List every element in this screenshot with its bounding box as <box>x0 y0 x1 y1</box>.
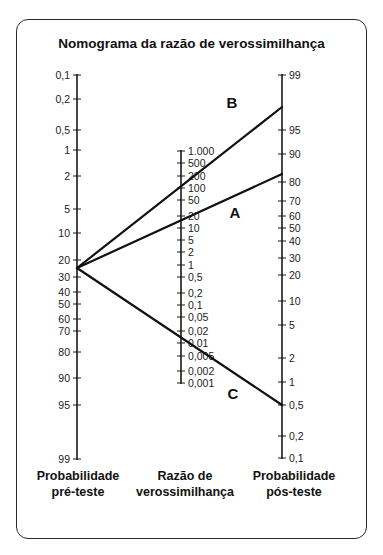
tick-label: 90 <box>58 372 70 384</box>
tick-label: 0,1 <box>188 299 203 311</box>
tick-label: 1 <box>64 144 70 156</box>
tick-label: 10 <box>188 222 200 234</box>
tick-label: 90 <box>289 148 301 160</box>
tick-label: 5 <box>64 203 70 215</box>
tick-label: 20 <box>289 269 301 281</box>
tick-label: 20 <box>58 254 70 266</box>
tick-label: 0,2 <box>289 430 304 442</box>
line-label-a: A <box>230 204 241 221</box>
axis-label-likelihood-ratio: Razão de verossimilhança <box>130 468 240 500</box>
tick-label: 30 <box>58 271 70 283</box>
tick-label: 70 <box>289 195 301 207</box>
tick-label: 0,001 <box>188 377 214 389</box>
tick-label: 500 <box>188 157 206 169</box>
axis-label-line: Razão de <box>130 468 240 484</box>
tick-label: 10 <box>289 295 301 307</box>
tick-label: 2 <box>289 352 295 364</box>
tick-label: 10 <box>58 227 70 239</box>
tick-label: 5 <box>289 319 295 331</box>
tick-label: 99 <box>58 453 70 465</box>
axis-label-line: Probabilidade <box>20 468 136 484</box>
tick-label: 0,5 <box>188 271 203 283</box>
axis-label-post-test: Probabilidade pós-teste <box>236 468 352 500</box>
tick-label: 1 <box>289 376 295 388</box>
tick-label: 0,2 <box>55 93 70 105</box>
tick-label: 1.000 <box>188 145 214 157</box>
tick-label: 40 <box>58 286 70 298</box>
axis-label-pre-test: Probabilidade pré-teste <box>20 468 136 500</box>
axis-label-line: verossimilhança <box>130 484 240 500</box>
tick-label: 0,5 <box>289 399 304 411</box>
tick-label: 0,1 <box>55 69 70 81</box>
tick-label: 60 <box>58 313 70 325</box>
tick-label: 2 <box>188 246 194 258</box>
tick-label: 0,2 <box>188 287 203 299</box>
tick-label: 0,05 <box>188 311 209 323</box>
tick-label: 0,1 <box>289 452 304 464</box>
tick-label: 99 <box>289 69 301 81</box>
tick-label: 50 <box>58 298 70 310</box>
tick-label: 5 <box>188 234 194 246</box>
line-label-b: B <box>227 94 238 111</box>
tick-label: 80 <box>58 346 70 358</box>
tick-label: 100 <box>188 182 206 194</box>
tick-label: 95 <box>58 399 70 411</box>
axis-label-line: pós-teste <box>236 484 352 500</box>
tick-label: 95 <box>289 124 301 136</box>
axis-label-line: pré-teste <box>20 484 136 500</box>
tick-label: 2 <box>64 170 70 182</box>
tick-label: 30 <box>289 252 301 264</box>
tick-label: 0,01 <box>188 337 209 349</box>
tick-label: 0,002 <box>188 365 214 377</box>
tick-label: 50 <box>188 194 200 206</box>
tick-label: 80 <box>289 176 301 188</box>
tick-label: 40 <box>289 235 301 247</box>
tick-label: 60 <box>289 210 301 222</box>
axis-label-line: Probabilidade <box>236 468 352 484</box>
line-c <box>77 268 282 405</box>
line-label-c: C <box>228 385 239 402</box>
tick-label: 50 <box>289 222 301 234</box>
tick-label: 0,5 <box>55 124 70 136</box>
tick-label: 70 <box>58 325 70 337</box>
tick-label: 0,02 <box>188 325 209 337</box>
tick-label: 1 <box>188 259 194 271</box>
